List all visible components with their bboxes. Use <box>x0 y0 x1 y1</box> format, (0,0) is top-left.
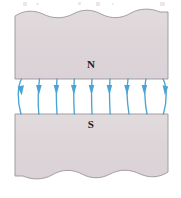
south-pole-label: S <box>81 118 101 130</box>
field-line-8 <box>145 79 147 114</box>
field-arrowhead-6 <box>107 85 113 95</box>
field-arrowhead-3 <box>54 85 60 95</box>
field-line-2 <box>38 79 39 114</box>
field-arrowhead-9 <box>163 85 169 95</box>
field-arrowhead-4 <box>71 85 77 95</box>
field-arrowhead-5 <box>89 85 95 95</box>
field-line-6 <box>110 79 111 114</box>
scan-artifact-mark <box>112 3 114 5</box>
scan-artifact-mark <box>78 2 81 5</box>
field-arrowhead-7 <box>124 85 130 95</box>
scan-artifact-mark <box>23 2 27 6</box>
field-line-9 <box>163 79 166 114</box>
scan-artifact-mark <box>160 2 165 6</box>
figure-canvas <box>0 0 181 198</box>
field-arrowhead-8 <box>142 85 148 95</box>
magnetic-field-lines <box>18 79 166 114</box>
field-arrowhead-2 <box>36 85 42 95</box>
field-line-1 <box>18 79 21 114</box>
scan-artifact-mark <box>36 3 39 5</box>
field-line-7 <box>127 79 129 114</box>
scan-artifact-mark <box>96 2 100 6</box>
field-arrowheads <box>18 85 169 96</box>
field-line-3 <box>56 79 57 114</box>
magnet-field-figure: N S <box>0 0 181 198</box>
north-pole-label: N <box>81 58 101 70</box>
